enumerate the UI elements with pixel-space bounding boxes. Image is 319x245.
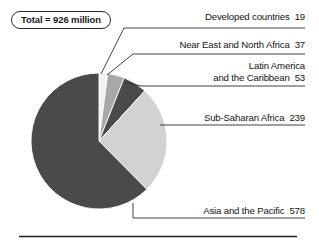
callout-asia-pacific: Asia and the Pacific578 — [203, 205, 305, 217]
callout-near-east-north-africa: Near East and North Africa37 — [179, 39, 305, 51]
callout-neareast-label: Near East and North Africa — [179, 39, 289, 50]
callout-latin-label-line2: and the Caribbean — [213, 72, 289, 83]
callout-neareast-value: 37 — [295, 39, 305, 50]
callout-latin-america-caribbean: Latin America and the Caribbean53 — [213, 60, 305, 83]
callout-latin-label-line1: Latin America — [213, 60, 305, 72]
callout-asia-value: 578 — [289, 205, 305, 216]
pie-chart-figure: Total = 926 million Developed countries1… — [0, 0, 319, 245]
total-badge: Total = 926 million — [11, 11, 111, 29]
callout-subsaharan-value: 239 — [289, 112, 305, 123]
callout-sub-saharan-africa: Sub-Saharan Africa239 — [204, 112, 305, 124]
callout-developed-value: 19 — [295, 11, 305, 22]
callout-developed-countries: Developed countries19 — [205, 11, 305, 23]
callout-latin-line2-row: and the Caribbean53 — [213, 72, 305, 84]
callout-subsaharan-label: Sub-Saharan Africa — [204, 112, 285, 123]
callout-asia-label: Asia and the Pacific — [203, 205, 284, 216]
callout-developed-label: Developed countries — [205, 11, 290, 22]
callout-latin-value: 53 — [295, 72, 305, 83]
